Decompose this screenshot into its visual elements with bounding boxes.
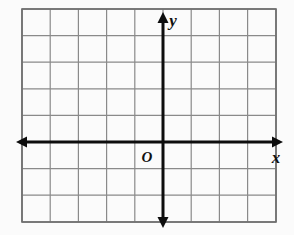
y-axis-label: y <box>167 11 177 30</box>
coordinate-plane-figure: x y O <box>0 0 294 235</box>
x-axis-label: x <box>271 148 281 167</box>
coordinate-plane-svg: x y O <box>0 0 294 235</box>
origin-label: O <box>142 149 153 165</box>
